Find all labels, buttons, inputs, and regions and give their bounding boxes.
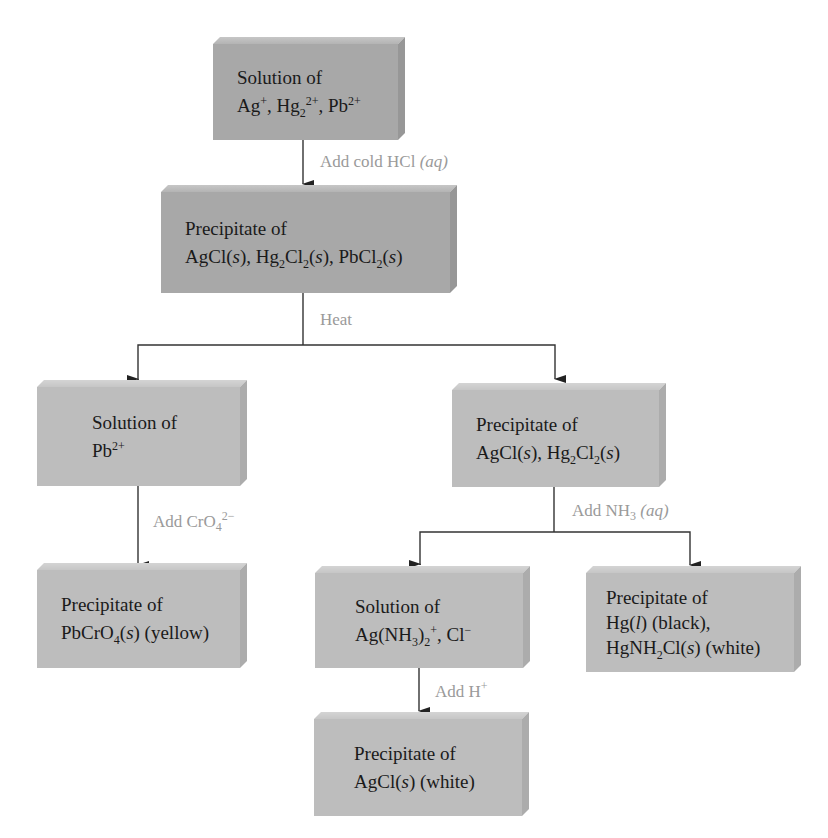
node-title: Precipitate of bbox=[61, 591, 209, 619]
node-contents: AgCl(s) (white) bbox=[354, 768, 475, 796]
node-contents: Ag+, Hg22+, Pb2+ bbox=[237, 92, 361, 120]
node-agcl-precipitate: Precipitate of AgCl(s) (white) bbox=[314, 712, 529, 816]
node-hg-precipitate: Precipitate of Hg(l) (black), HgNH2Cl(s)… bbox=[586, 566, 801, 672]
node-contents-line2: HgNH2Cl(s) (white) bbox=[606, 635, 760, 660]
node-title: Precipitate of bbox=[185, 215, 403, 243]
node-start-solution: Solution of Ag+, Hg22+, Pb2+ bbox=[213, 37, 405, 140]
node-group-precipitate: Precipitate of AgCl(s), Hg2Cl2(s), PbCl2… bbox=[161, 185, 457, 293]
reagent-add-acid: Add H+ bbox=[435, 682, 488, 702]
node-pb-solution: Solution of Pb2+ bbox=[37, 380, 247, 486]
node-contents-line1: Hg(l) (black), bbox=[606, 610, 760, 635]
node-title: Solution of bbox=[92, 409, 177, 437]
node-title: Precipitate of bbox=[354, 740, 475, 768]
reagent-add-cold-hcl: Add cold HCl (aq) bbox=[320, 152, 448, 172]
node-contents: Pb2+ bbox=[92, 437, 177, 465]
node-title: Solution of bbox=[237, 64, 361, 92]
reagent-add-ammonia: Add NH3 (aq) bbox=[572, 501, 669, 521]
node-title: Precipitate of bbox=[476, 411, 620, 439]
node-contents: AgCl(s), Hg2Cl2(s) bbox=[476, 439, 620, 467]
node-title: Solution of bbox=[355, 593, 471, 621]
node-contents: PbCrO4(s) (yellow) bbox=[61, 619, 209, 647]
node-contents: AgCl(s), Hg2Cl2(s), PbCl2(s) bbox=[185, 243, 403, 271]
reagent-heat: Heat bbox=[320, 310, 352, 330]
node-title: Precipitate of bbox=[606, 585, 760, 610]
node-pbcro4-precipitate: Precipitate of PbCrO4(s) (yellow) bbox=[37, 563, 247, 668]
node-ag-hg-precipitate: Precipitate of AgCl(s), Hg2Cl2(s) bbox=[452, 383, 666, 487]
reagent-add-chromate: Add CrO42− bbox=[153, 512, 235, 532]
node-ag-ammine-solution: Solution of Ag(NH3)2+, Cl− bbox=[315, 566, 530, 668]
node-contents: Ag(NH3)2+, Cl− bbox=[355, 621, 471, 649]
